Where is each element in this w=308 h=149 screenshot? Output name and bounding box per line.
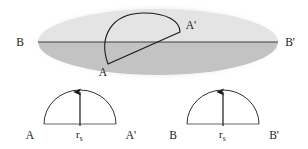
label-b-left: B (16, 36, 24, 48)
label-radius-a-subscript: s (80, 134, 83, 143)
label-b-right-prime: B' (285, 36, 295, 48)
label-a-lower: A (99, 66, 108, 78)
diagram-canvas: B B' A A' A A' rs (0, 0, 308, 149)
label-a-upper-prime: A' (186, 19, 196, 31)
label-b-right-bottom: B' (269, 129, 279, 141)
label-radius-b: rs (219, 128, 226, 143)
label-b-left-bottom: B (169, 129, 177, 141)
ellipsoid-panel: B B' A A' (16, 3, 295, 81)
semicircle-panel-b: B B' rs (169, 90, 279, 143)
label-radius-a: rs (76, 128, 83, 143)
label-a-right-bottom: A' (126, 129, 136, 141)
semicircle-panel-a: A A' rs (26, 90, 136, 143)
figure-container: B B' A A' A A' rs (0, 0, 308, 149)
label-radius-b-subscript: s (223, 134, 226, 143)
label-a-left-bottom: A (26, 129, 35, 141)
